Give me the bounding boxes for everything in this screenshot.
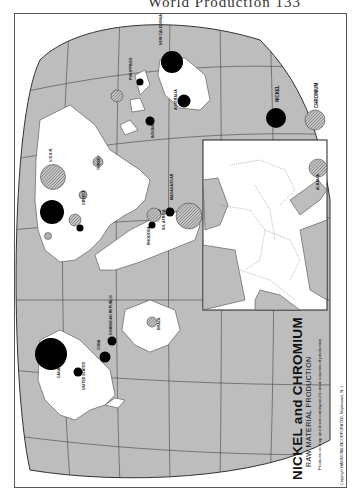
label-ussr: U.S.S.R. [49,148,53,162]
map-subtitle: RAW MATERIAL PRODUCTION [305,357,312,467]
label-australia: AUSTRALIA [174,89,178,110]
legend-chromium-label: CHROMIUM [314,83,319,108]
label-brazil: BRAZIL [157,316,161,330]
legend-nickel-symbol [266,108,286,128]
nickel-dominican-republic [108,337,117,346]
label-dominican-republic: DOMINICAN REPUBLIC [109,294,113,335]
nickel-cuba [100,352,111,363]
nickel-new-caledonia [161,51,183,73]
chromium-south-africa [176,203,202,229]
nickel-africa [166,208,175,217]
legend-nickel-label: NICKEL [275,85,280,102]
inset-map: ALBANIA [203,140,327,310]
inset-label-albania: ALBANIA [316,173,320,190]
label-rhodesia: RHODESIA [147,226,151,245]
chromium-ussr [41,165,66,190]
label-greece: GREECE [82,189,86,205]
label-philippines: PHILIPPINES [129,57,133,80]
chromium-madagascar-region [147,208,161,222]
label-new-caledonia: NEW CALEDONIA [159,14,163,45]
nickel-ussr [40,200,64,224]
label-united-states: UNITED STATES [82,361,86,390]
label-turkey: TURKEY [97,155,101,170]
copyright: Copyright HAMMOND INCORPORATED, Maplewoo… [340,385,344,485]
label-south-africa: SO. AFRICA [162,209,166,230]
label-cuba: CUBA [97,339,101,350]
label-indonesia: INDONESIA [151,118,155,138]
nickel-canada [35,338,67,370]
map-note: Products on map and inset correspond to … [317,337,322,470]
chromium-yugoslavia [69,214,81,226]
chromium-philippines [111,90,123,102]
label-madagascar: MADAGASCAR [170,173,174,200]
map-title: NICKEL and CHROMIUM [290,317,305,480]
nickel-australia [178,95,191,108]
chromium-brazil [147,317,157,327]
label-canada: CANADA [57,362,61,378]
nickel-philippines [137,79,144,86]
chromium-albania [45,233,52,240]
legend-chromium-symbol [305,110,325,130]
